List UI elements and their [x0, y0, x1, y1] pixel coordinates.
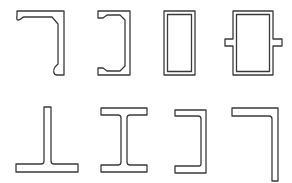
profile-rectangular-hollow: Rectangular hollow section: [164, 11, 195, 75]
profile-angle: Angle (L) section: [232, 108, 278, 181]
profile-t-section: Inverted T-section: [16, 107, 78, 172]
profiles-diagram: Lipped channel (open left, curled lips) …: [0, 0, 292, 183]
profile-i-beam: I-beam: [101, 108, 147, 172]
profile-lipped-channel-left: Lipped channel (open left, curled lips): [17, 11, 64, 75]
profile-lipped-channel: Lipped C-channel: [98, 11, 130, 75]
profile-box-with-flanges: Box section with side flanges: [225, 11, 282, 75]
profile-channel: Channel (C) section: [175, 110, 206, 173]
